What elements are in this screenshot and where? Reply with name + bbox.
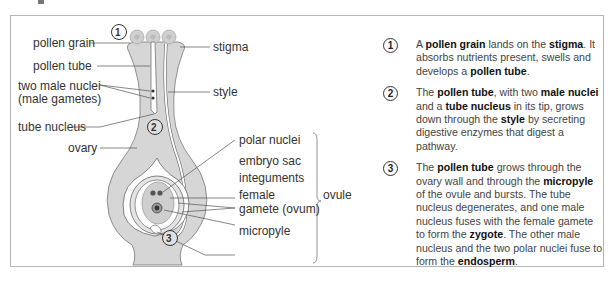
polar-nucleus-1 xyxy=(150,190,155,195)
label-integuments: integuments xyxy=(239,172,304,185)
label-style: style xyxy=(213,86,238,99)
label-ovary: ovary xyxy=(68,142,97,155)
step-text: A pollen grain lands on the stigma. It a… xyxy=(416,38,595,77)
marker-2-label: 2 xyxy=(151,121,157,134)
label-polar-nuclei: polar nuclei xyxy=(239,134,300,147)
label-female: female xyxy=(239,189,275,202)
step-3: 3 The pollen tube grows through the ovar… xyxy=(383,161,605,268)
label-ovule: ovule xyxy=(323,189,352,202)
marker-3-label: 3 xyxy=(166,232,172,245)
label-stigma: stigma xyxy=(213,41,248,54)
label-embryo-sac: embryo sac xyxy=(239,155,301,168)
step-number: 1 xyxy=(383,38,398,53)
step-number: 2 xyxy=(383,86,398,101)
label-gamete-ovum: gamete (ovum) xyxy=(239,203,320,216)
step-number: 3 xyxy=(383,161,398,176)
step-1: 1 A pollen grain lands on the stigma. It… xyxy=(383,38,605,78)
ovule-brace xyxy=(313,133,321,263)
step-2: 2 The pollen tube, with two male nuclei … xyxy=(383,86,605,153)
label-micropyle: micropyle xyxy=(239,225,290,238)
label-male-gametes: (male gametes) xyxy=(18,93,101,106)
label-pollen-grain: pollen grain xyxy=(33,37,95,50)
step-text: The pollen tube grows through the ovary … xyxy=(416,161,602,267)
step-list: 1 A pollen grain lands on the stigma. It… xyxy=(383,38,605,277)
label-pollen-tube: pollen tube xyxy=(33,60,92,73)
polar-nucleus-2 xyxy=(157,190,162,195)
step-text: The pollen tube, with two male nuclei an… xyxy=(416,86,599,152)
label-tube-nucleus: tube nucleus xyxy=(18,121,86,134)
marker-1-label: 1 xyxy=(115,26,121,39)
clipped-caption xyxy=(10,275,435,283)
